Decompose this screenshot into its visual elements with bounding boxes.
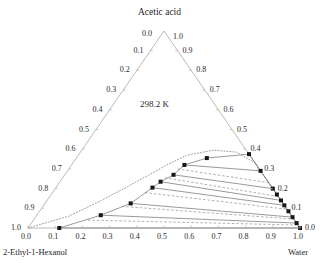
right-tick-0.9: 0.9 [183, 47, 193, 55]
bottom-tick-0.3: 0.3 [103, 233, 113, 241]
right-tick-0.6: 0.6 [223, 106, 233, 114]
left-tick-0.6: 0.6 [65, 145, 75, 153]
experimental-tie-lines [59, 165, 300, 228]
data-point-marker [279, 198, 283, 202]
right-tick-0.3: 0.3 [264, 165, 274, 173]
apex-label-acetic-acid: Acetic acid [138, 8, 181, 18]
bottom-tick-0.2: 0.2 [75, 233, 85, 241]
right-tick-0.0: 0.0 [305, 224, 315, 232]
bottom-tick-0.0: 0.0 [21, 233, 31, 241]
bottom-tick-0.7: 0.7 [211, 233, 221, 241]
bottom-tick-0.6: 0.6 [184, 233, 194, 241]
left-tick-0.9: 0.9 [25, 204, 35, 212]
temperature-label: 298.2 K [140, 100, 169, 109]
data-point-marker [286, 209, 290, 213]
data-point-marker [159, 180, 163, 184]
left-tick-0.3: 0.3 [106, 86, 116, 94]
left-tick-0.7: 0.7 [52, 165, 62, 173]
data-point-marker [57, 226, 61, 230]
bottom-tick-0.1: 0.1 [48, 233, 58, 241]
right-tick-0.2: 0.2 [278, 185, 288, 193]
corner-label-hexanol: 2-Ethyl-1-Hexanol [3, 248, 67, 257]
data-point-marker [275, 193, 279, 197]
bottom-tick-0.9: 0.9 [266, 233, 276, 241]
left-tick-1.0: 1.0 [11, 224, 21, 232]
data-point-marker [150, 186, 154, 190]
apex-tick-left: 0.0 [142, 30, 152, 38]
bottom-tick-1.0: 1.0 [293, 233, 303, 241]
bottom-tick-0.5: 0.5 [157, 233, 167, 241]
left-tick-0.8: 0.8 [38, 185, 48, 193]
data-point-marker [172, 173, 176, 177]
left-tick-0.5: 0.5 [79, 126, 89, 134]
right-tick-0.4: 0.4 [251, 145, 261, 153]
right-tick-0.7: 0.7 [210, 86, 220, 94]
ternary-diagram-canvas [0, 0, 332, 263]
apex-tick-right: 1.0 [173, 33, 183, 41]
right-tick-0.8: 0.8 [196, 66, 206, 74]
bottom-tick-0.8: 0.8 [239, 233, 249, 241]
left-tick-0.2: 0.2 [120, 66, 130, 74]
data-point-marker [182, 163, 186, 167]
data-point-marker [205, 156, 209, 160]
data-point-marker [129, 201, 133, 205]
data-point-marker [295, 221, 299, 225]
data-point-marker [99, 213, 103, 217]
triangle-axes [28, 31, 300, 228]
right-tick-0.5: 0.5 [237, 126, 247, 134]
bottom-tick-0.4: 0.4 [130, 233, 140, 241]
data-point-marker [259, 169, 263, 173]
left-tick-0.1: 0.1 [133, 47, 143, 55]
axis-tick-marks [28, 51, 300, 228]
data-point-marker [291, 215, 295, 219]
data-point-marker [282, 203, 286, 207]
right-tick-0.1: 0.1 [291, 204, 301, 212]
corner-label-water: Water [288, 248, 308, 257]
left-tick-0.4: 0.4 [93, 106, 103, 114]
